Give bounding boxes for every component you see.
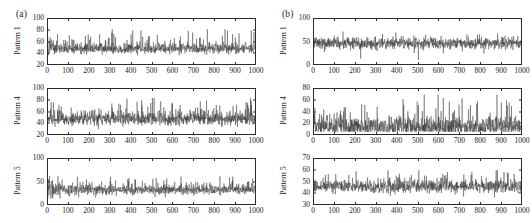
figure-root: (a) 204060801000100200300400500600700800…: [0, 0, 532, 223]
y-tick-label: 60: [303, 166, 311, 174]
x-tick-label: 800: [475, 137, 486, 145]
x-tick-mark: [501, 88, 502, 91]
x-tick-mark: [172, 62, 173, 65]
y-axis-label: Pattern 4: [279, 87, 288, 134]
panel-b: (b) 050100010020030040050060070080090010…: [266, 0, 532, 223]
y-tick-label: 40: [37, 50, 45, 58]
x-tick-mark: [438, 202, 439, 205]
x-tick-mark: [235, 158, 236, 161]
x-tick-label: 100: [62, 207, 73, 215]
x-tick-label: 800: [475, 207, 486, 215]
y-axis-label: Pattern 5: [13, 157, 22, 204]
x-tick-mark: [397, 18, 398, 21]
panel-a: (a) 204060801000100200300400500600700800…: [0, 0, 266, 223]
y-tick-mark: [47, 111, 50, 112]
x-tick-mark: [459, 158, 460, 161]
x-tick-label: 200: [83, 67, 94, 75]
x-tick-label: 500: [412, 137, 423, 145]
x-tick-mark: [355, 158, 356, 161]
x-tick-label: 400: [391, 207, 402, 215]
y-tick-label: 100: [299, 14, 310, 22]
x-tick-mark: [355, 88, 356, 91]
x-tick-label: 1000: [249, 207, 264, 215]
x-tick-mark: [89, 158, 90, 161]
x-tick-label: 1000: [515, 137, 530, 145]
x-tick-mark: [131, 88, 132, 91]
y-tick-mark: [519, 123, 522, 124]
x-tick-mark: [418, 202, 419, 205]
subplot-a-2: 2040608010001002003004005006007008009001…: [47, 88, 256, 135]
y-tick-label: 40: [37, 120, 45, 128]
x-tick-mark: [376, 18, 377, 21]
x-tick-mark: [214, 18, 215, 21]
x-tick-label: 800: [209, 207, 220, 215]
x-tick-mark: [376, 202, 377, 205]
x-tick-mark: [68, 62, 69, 65]
x-tick-label: 600: [167, 207, 178, 215]
x-tick-mark: [235, 88, 236, 91]
x-tick-label: 500: [146, 67, 157, 75]
subplot-a-3: 05010001002003004005006007008009001000: [47, 158, 256, 205]
x-tick-mark: [355, 202, 356, 205]
x-tick-mark: [214, 88, 215, 91]
y-axis-label: Pattern 5: [279, 157, 288, 204]
x-tick-label: 300: [370, 67, 381, 75]
y-tick-label: 100: [33, 154, 44, 162]
x-tick-mark: [334, 18, 335, 21]
x-tick-mark: [438, 88, 439, 91]
x-tick-mark: [459, 132, 460, 135]
x-tick-label: 1000: [249, 137, 264, 145]
x-tick-mark: [152, 158, 153, 161]
x-tick-label: 200: [83, 207, 94, 215]
x-tick-mark: [418, 88, 419, 91]
y-tick-label: 0: [306, 131, 310, 139]
x-tick-mark: [152, 132, 153, 135]
x-tick-mark: [501, 158, 502, 161]
x-tick-mark: [193, 88, 194, 91]
y-tick-label: 20: [303, 120, 311, 128]
x-tick-mark: [459, 62, 460, 65]
y-tick-label: 60: [37, 38, 45, 46]
x-tick-mark: [397, 88, 398, 91]
x-tick-mark: [68, 158, 69, 161]
x-tick-mark: [501, 132, 502, 135]
y-tick-mark: [47, 41, 50, 42]
x-tick-label: 400: [125, 207, 136, 215]
plot-frame: [313, 88, 522, 135]
x-tick-label: 0: [311, 207, 315, 215]
x-tick-mark: [418, 158, 419, 161]
x-tick-mark: [89, 202, 90, 205]
y-tick-mark: [253, 53, 256, 54]
x-tick-label: 800: [209, 67, 220, 75]
subplot-b-2: 0204060800100200300400500600700800900100…: [313, 88, 522, 135]
x-tick-label: 0: [311, 67, 315, 75]
subplot-a-1: 2040608010001002003004005006007008009001…: [47, 18, 256, 65]
x-tick-label: 500: [146, 207, 157, 215]
x-tick-label: 900: [229, 137, 240, 145]
x-tick-mark: [131, 18, 132, 21]
x-tick-mark: [110, 62, 111, 65]
x-tick-mark: [355, 62, 356, 65]
x-tick-mark: [172, 88, 173, 91]
plot-frame: [313, 158, 522, 205]
x-tick-mark: [334, 202, 335, 205]
x-tick-label: 200: [349, 67, 360, 75]
y-tick-label: 100: [33, 14, 44, 22]
x-tick-label: 300: [104, 137, 115, 145]
x-tick-mark: [376, 158, 377, 161]
y-tick-mark: [519, 99, 522, 100]
y-tick-mark: [519, 193, 522, 194]
y-tick-label: 0: [306, 61, 310, 69]
y-tick-label: 50: [303, 178, 311, 186]
x-tick-label: 800: [209, 137, 220, 145]
x-tick-label: 0: [45, 67, 49, 75]
y-tick-mark: [313, 111, 316, 112]
x-tick-mark: [459, 18, 460, 21]
x-tick-mark: [376, 88, 377, 91]
x-tick-label: 900: [495, 207, 506, 215]
x-tick-mark: [131, 202, 132, 205]
x-tick-mark: [397, 132, 398, 135]
x-tick-mark: [110, 88, 111, 91]
plot-frame: [47, 18, 256, 65]
x-tick-mark: [397, 202, 398, 205]
